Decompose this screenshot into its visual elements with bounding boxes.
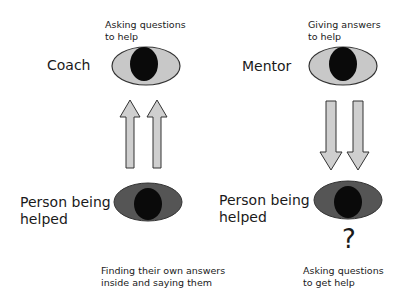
helped-label-right: Person being helped [219,192,310,226]
helped-label-left: Person being helped [20,194,111,228]
label-line: Person being [219,192,310,209]
caption-line: to help [308,31,381,43]
diagram-canvas [0,0,409,300]
helped-eye-icon [314,181,382,219]
coach-label: Coach [47,57,91,73]
helped-eye-icon [114,183,182,221]
coach-caption: Asking questions to help [105,19,186,43]
caption-line: to get help [303,277,384,289]
caption-line: Giving answers [308,19,381,31]
down-arrow-icon [347,101,369,170]
helped-caption-left: Finding their own answers inside and say… [101,265,225,289]
mentor-label: Mentor [242,58,291,74]
up-arrow-icon [120,100,140,168]
caption-line: Asking questions [303,265,384,277]
mentor-caption: Giving answers to help [308,19,381,43]
question-mark-icon: ? [342,225,356,253]
label-line: Person being [20,194,111,211]
coach-eye-icon [112,47,180,85]
down-arrow-icon [320,101,342,170]
mentor-eye-icon [309,47,377,85]
label-line: helped [219,209,310,226]
up-arrow-icon [147,100,167,168]
label-line: helped [20,211,111,228]
caption-line: Finding their own answers [101,265,225,277]
helped-caption-right: Asking questions to get help [303,265,384,289]
caption-line: to help [105,31,186,43]
caption-line: inside and saying them [101,277,225,289]
caption-line: Asking questions [105,19,186,31]
